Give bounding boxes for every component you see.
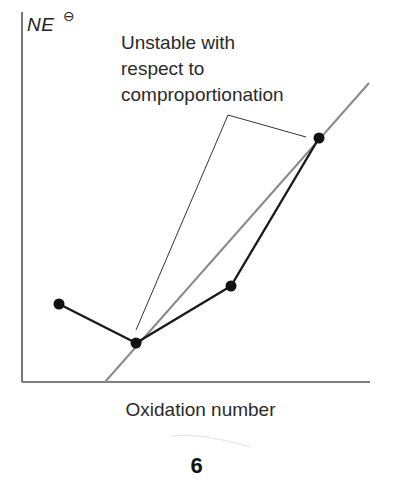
annotation-line: respect to bbox=[121, 56, 284, 82]
annotation-line: Unstable with bbox=[121, 30, 284, 56]
x-axis-label: Oxidation number bbox=[0, 399, 393, 421]
data-point bbox=[54, 299, 65, 310]
y-axis-label-text: NE bbox=[27, 14, 54, 35]
species-line bbox=[59, 138, 319, 343]
comproportionation-annotation: Unstable with respect to comproportionat… bbox=[121, 30, 284, 108]
data-point bbox=[314, 133, 325, 144]
data-point bbox=[226, 281, 237, 292]
annotation-line: comproportionation bbox=[121, 82, 284, 108]
y-axis-label: NE ⊖ bbox=[27, 14, 54, 36]
scan-artifact bbox=[170, 435, 250, 447]
standard-state-symbol: ⊖ bbox=[63, 9, 75, 23]
annotation-leader-lines bbox=[136, 115, 306, 330]
data-point bbox=[131, 338, 142, 349]
figure-number: 6 bbox=[0, 453, 393, 479]
frost-diagram-figure: NE ⊖ Unstable with respect to comproport… bbox=[0, 0, 393, 482]
